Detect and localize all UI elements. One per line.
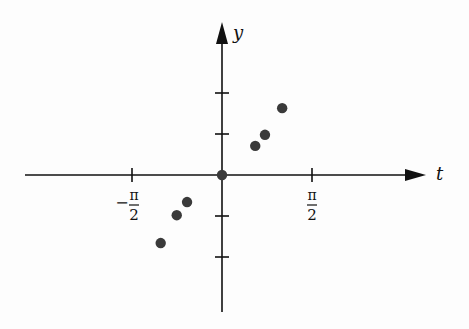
data-point <box>277 103 287 113</box>
axis-labels: −π2π2ty <box>115 22 444 224</box>
x-tick-label: π2 <box>307 187 317 224</box>
scatter-plot: −π2π2ty <box>0 0 469 329</box>
x-axis-label: t <box>436 163 444 184</box>
y-axis-label: y <box>232 22 244 43</box>
axes <box>25 22 426 312</box>
x-axis-arrow-icon <box>405 169 426 181</box>
data-point <box>172 210 182 220</box>
tick-denominator: 2 <box>307 206 317 224</box>
data-point <box>182 197 192 207</box>
tick-denominator: 2 <box>129 206 139 224</box>
x-tick-label: −π2 <box>115 187 139 224</box>
tick-numerator: π <box>129 187 138 203</box>
data-point <box>155 238 165 248</box>
data-point <box>217 170 227 180</box>
y-axis-arrow-icon <box>216 22 228 44</box>
tick-numerator: π <box>307 187 316 203</box>
minus-sign: − <box>115 193 128 212</box>
data-point <box>260 130 270 140</box>
data-point <box>250 141 260 151</box>
